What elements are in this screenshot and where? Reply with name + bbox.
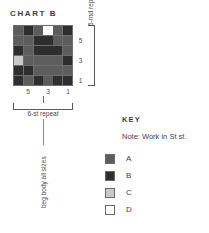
chart-cell bbox=[24, 46, 33, 55]
chart-cell bbox=[53, 26, 62, 35]
row-number-5: 5 bbox=[76, 37, 85, 44]
chart-cell bbox=[43, 26, 52, 35]
column-number-1: 1 bbox=[63, 88, 73, 95]
key-swatch-a bbox=[105, 154, 115, 164]
chart-cell bbox=[53, 76, 62, 85]
chart-grid bbox=[13, 25, 73, 86]
chart-cell bbox=[63, 26, 72, 35]
key-list: ABCD bbox=[105, 150, 195, 218]
chart-cell bbox=[34, 26, 43, 35]
chart-cell bbox=[53, 36, 62, 45]
round-repeat-label: 6-rnd repeat bbox=[87, 0, 94, 28]
key-swatch-c bbox=[105, 188, 115, 198]
chart-cell bbox=[43, 56, 52, 65]
key-row: B bbox=[105, 167, 195, 184]
key-label: A bbox=[126, 154, 131, 163]
chart-cell bbox=[24, 76, 33, 85]
row-number-1: 1 bbox=[76, 77, 85, 84]
key-swatch-d bbox=[105, 205, 115, 215]
chart-cell bbox=[53, 56, 62, 65]
key-note: Note: Work in St st. bbox=[122, 132, 186, 141]
stitch-repeat-tick bbox=[43, 96, 44, 103]
chart-cell bbox=[63, 56, 72, 65]
chart-cell bbox=[53, 66, 62, 75]
column-number-5: 5 bbox=[23, 88, 33, 95]
key-heading: KEY bbox=[122, 115, 141, 124]
page-title: CHART B bbox=[10, 9, 57, 18]
chart-cell bbox=[43, 46, 52, 55]
chart-cell bbox=[63, 66, 72, 75]
chart-cell bbox=[43, 36, 52, 45]
key-label: D bbox=[126, 205, 132, 214]
chart-cell bbox=[63, 76, 72, 85]
row-number-3: 3 bbox=[76, 57, 85, 64]
chart-cell bbox=[34, 36, 43, 45]
key-swatch-b bbox=[105, 171, 115, 181]
chart-cell bbox=[24, 36, 33, 45]
stitch-repeat-bracket bbox=[13, 103, 73, 110]
stitch-repeat-label: 6-st repeat bbox=[13, 110, 73, 117]
chart-cell bbox=[43, 76, 52, 85]
round-repeat-bracket bbox=[88, 25, 95, 86]
chart-cell bbox=[34, 76, 43, 85]
beg-body-label: beg body all sizes bbox=[40, 146, 47, 208]
key-label: C bbox=[126, 188, 132, 197]
chart-cell bbox=[34, 66, 43, 75]
chart-cell bbox=[63, 36, 72, 45]
chart-cell bbox=[14, 46, 23, 55]
chart-cell bbox=[53, 46, 62, 55]
chart-cell bbox=[34, 56, 43, 65]
chart-cell bbox=[34, 46, 43, 55]
chart-cell bbox=[24, 56, 33, 65]
key-row: D bbox=[105, 201, 195, 218]
chart-cell bbox=[14, 56, 23, 65]
chart-cell bbox=[14, 26, 23, 35]
chart-cell bbox=[24, 26, 33, 35]
column-number-3: 3 bbox=[43, 88, 53, 95]
chart-cell bbox=[63, 46, 72, 55]
chart-cell bbox=[24, 66, 33, 75]
beg-body-leader-line bbox=[43, 119, 44, 145]
chart-cell bbox=[43, 66, 52, 75]
chart-cell bbox=[14, 66, 23, 75]
key-row: C bbox=[105, 184, 195, 201]
key-label: B bbox=[126, 171, 131, 180]
chart-cell bbox=[14, 36, 23, 45]
chart-cell bbox=[14, 76, 23, 85]
key-row: A bbox=[105, 150, 195, 167]
